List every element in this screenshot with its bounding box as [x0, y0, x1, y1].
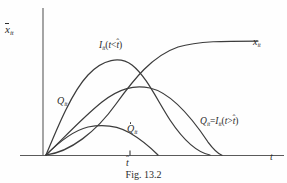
curve-I-it-before: [46, 60, 210, 155]
curve-label-I-paren-close: ): [119, 40, 122, 50]
curve-label-QI-paren-close: ): [235, 116, 238, 126]
y-axis-label: xit: [5, 24, 13, 37]
y-axis-label-subscript: it: [10, 29, 14, 36]
x-axis-label: t: [270, 152, 273, 162]
figure-caption: Fig. 13.2: [0, 170, 287, 180]
curve-label-Qdot-symbol: Q: [127, 123, 134, 134]
x-axis-tick-label-that: ̂t: [126, 158, 129, 168]
x-axis-tick-symbol: t: [126, 157, 129, 168]
figure-container: xit xit Iit(t<̂t) Qit Qit Qit=Iit(t>̂t) …: [0, 0, 287, 183]
curve-label-Qdot-subscript: it: [134, 128, 137, 135]
y-axis-label-symbol: x: [5, 23, 10, 35]
curve-label-I-cond-that: t: [116, 40, 119, 50]
curve-label-I-it-before: Iit(t<̂t): [99, 41, 122, 52]
plot-area: [0, 0, 287, 183]
curve-label-QI-cond-that: t: [233, 116, 236, 126]
curve-label-Q-subscript: it: [64, 100, 67, 107]
curve-label-x-subscript: it: [257, 41, 260, 48]
curve-label-Qdot-it: Qit: [127, 124, 137, 135]
curve-label-Q-equals-I-after: Qit=Iit(t>̂t): [200, 117, 238, 128]
curve-x-it: [46, 41, 258, 155]
curve-label-Q-it: Qit: [57, 96, 67, 107]
curve-label-QI-Q-symbol: Q: [200, 116, 207, 126]
curve-label-x-it: xit: [253, 37, 261, 48]
